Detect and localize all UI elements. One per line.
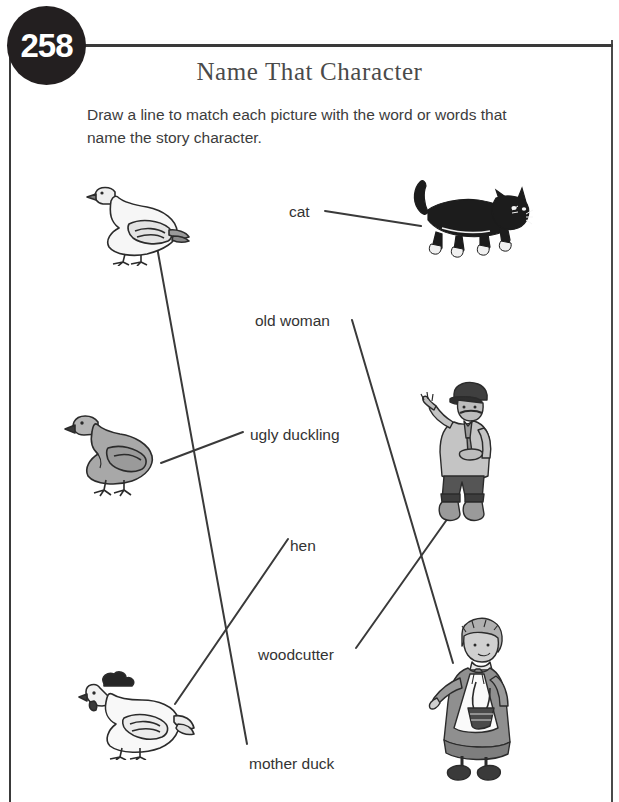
picture-grey-duckling [62, 404, 167, 499]
word-label-ugly-duckling[interactable]: ugly duckling [250, 426, 340, 444]
page-number-badge: 258 [7, 6, 86, 85]
word-label-hen[interactable]: hen [290, 537, 316, 555]
word-label-mother-duck[interactable]: mother duck [249, 755, 334, 773]
worksheet-page: 258 Name That Character Draw a line to m… [0, 0, 619, 802]
line-cat [325, 211, 421, 226]
instructions-text: Draw a line to match each picture with t… [87, 103, 537, 149]
word-label-cat[interactable]: cat [289, 203, 310, 221]
page-border-left [9, 40, 11, 802]
page-title: Name That Character [0, 58, 619, 86]
picture-black-cat [408, 176, 533, 258]
word-label-old-woman[interactable]: old woman [255, 312, 330, 330]
picture-white-hen [78, 668, 196, 760]
word-label-woodcutter[interactable]: woodcutter [258, 646, 334, 664]
picture-white-goose [85, 176, 190, 266]
line-ugly-duckling [161, 432, 243, 463]
picture-old-woman [428, 612, 524, 788]
picture-woodcutter [420, 376, 512, 524]
page-border-right [611, 40, 613, 802]
page-border-top [60, 44, 613, 47]
